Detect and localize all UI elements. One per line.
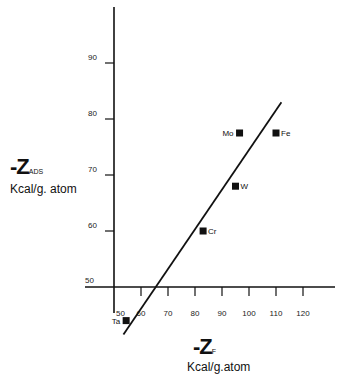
x-axis-subscript: F [212,348,216,355]
y-tick-label: 80 [88,109,97,118]
data-point-mo: Mo [222,129,243,138]
square-marker-icon [236,130,243,137]
y-tick-label: 60 [88,221,97,230]
axis-ticks: 50607080905060708090100110120 [85,53,310,318]
point-label: Ta [112,317,121,326]
y-tick-label: 50 [85,276,94,285]
y-axis-symbol: -Z [10,154,29,179]
x-tick-label: 120 [296,309,310,318]
x-tick-label: 110 [270,309,283,318]
x-axis-symbol: -Z [193,334,212,359]
x-axis-title: -ZF Kcal/g.atom [187,334,250,374]
point-label: W [241,182,249,191]
data-points: MoFeWCrTa [112,129,291,326]
regression-line [123,102,281,334]
axes [85,7,335,313]
x-tick-label: 80 [191,309,200,318]
x-tick-label: 100 [242,309,256,318]
y-axis-units: Kcal/g. atom [10,182,77,196]
y-tick-label: 70 [88,165,97,174]
square-marker-icon [273,130,280,137]
x-axis-units: Kcal/g.atom [187,360,250,374]
square-marker-icon [123,317,130,324]
point-label: Cr [208,227,217,236]
x-tick-label: 70 [164,309,173,318]
y-tick-label: 90 [88,53,97,62]
square-marker-icon [200,228,207,235]
data-point-fe: Fe [273,129,291,138]
y-axis-title: -ZADS Kcal/g. atom [10,154,77,196]
fit-line [123,102,281,334]
y-axis-subscript: ADS [29,168,43,175]
square-marker-icon [232,183,239,190]
point-label: Fe [281,129,291,138]
data-point-cr: Cr [200,227,217,236]
point-label: Mo [222,129,234,138]
data-point-w: W [232,182,249,191]
x-tick-label: 90 [218,309,227,318]
